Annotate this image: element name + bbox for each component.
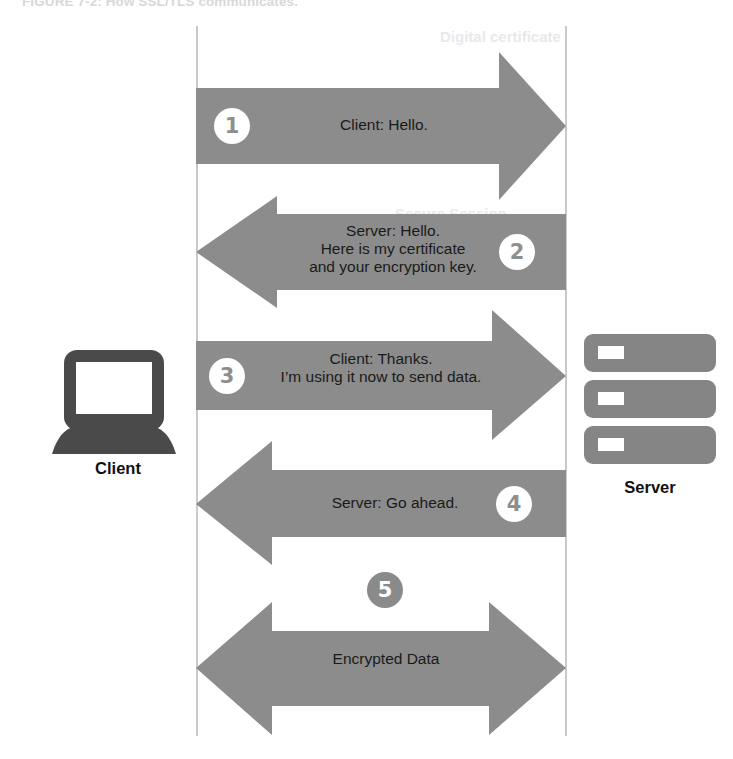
laptop-icon	[48, 348, 188, 458]
arrow-step-1	[196, 52, 566, 200]
step-badge-1: 1	[214, 108, 250, 144]
server-label: Server	[580, 478, 720, 497]
step-badge-4: 4	[496, 486, 532, 522]
arrow-step-3	[196, 310, 566, 440]
step-badge-2: 2	[499, 234, 535, 270]
client-label: Client	[48, 459, 188, 478]
step-badge-5: 5	[367, 572, 403, 608]
step-badge-3: 3	[209, 358, 245, 394]
diagram-canvas: FIGURE 7-2: How SSL/TLS communicates. Di…	[0, 0, 733, 759]
server-rack-icon	[580, 332, 720, 472]
arrow-step-5	[196, 602, 566, 735]
